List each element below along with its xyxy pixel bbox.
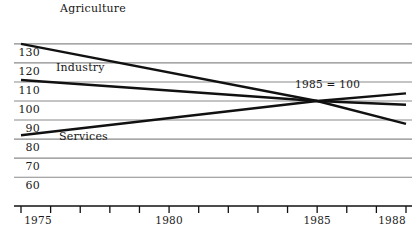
y-axis-label-130: 130 (14, 46, 40, 59)
series-label-services: Services (59, 130, 108, 143)
y-axis-label-90: 90 (14, 122, 40, 135)
series-line-services (21, 93, 406, 135)
x-axis-label-1980: 1980 (155, 214, 183, 226)
y-axis-label-100: 100 (14, 103, 40, 116)
y-axis-label-120: 120 (14, 65, 40, 78)
line-chart: 60708090100110120130 1975198019851988 Ag… (0, 0, 419, 230)
annotation-base-year: 1985 = 100 (295, 78, 360, 90)
y-axis-label-70: 70 (14, 160, 40, 173)
y-axis-label-60: 60 (14, 179, 40, 192)
x-axis-label-1988: 1988 (378, 214, 406, 226)
x-axis-label-1985: 1985 (303, 214, 331, 226)
y-axis-label-80: 80 (14, 141, 40, 154)
x-axis-label-1975: 1975 (24, 214, 52, 226)
series-label-industry: Industry (56, 61, 105, 74)
y-axis-label-110: 110 (14, 84, 40, 97)
x-axis (14, 206, 412, 213)
chart-canvas (0, 0, 419, 230)
series-label-agriculture: Agriculture (60, 2, 126, 15)
